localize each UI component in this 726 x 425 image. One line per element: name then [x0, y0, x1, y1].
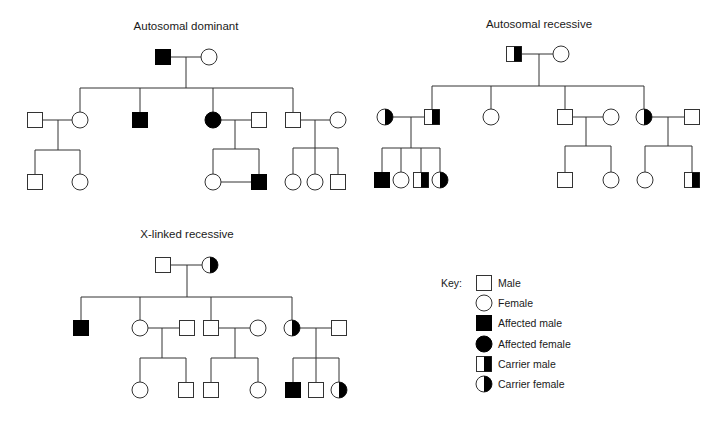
carrier-female-symbol [284, 320, 300, 336]
panel-title-dominant: Autosomal dominant [134, 20, 240, 32]
pedigree-autosomal-recessive: Autosomal recessive [375, 18, 700, 188]
female-symbol [637, 172, 653, 188]
key-item-label: Female [498, 297, 533, 309]
female-symbol [132, 320, 148, 336]
carrier-female-symbol [636, 109, 652, 125]
key-item-affected-male: Affected male [477, 316, 563, 331]
male-symbol [28, 175, 43, 190]
key-item-carrier-female: Carrier female [476, 376, 565, 392]
panel-title-recessive: Autosomal recessive [486, 18, 592, 30]
male-symbol [28, 113, 43, 128]
male-symbol [331, 175, 346, 190]
male-symbol [204, 383, 219, 398]
carrier-female-symbol [377, 109, 393, 125]
male-symbol [286, 113, 301, 128]
key-item-carrier-male: Carrier male [477, 357, 556, 372]
key-item-label: Male [498, 277, 521, 289]
male-symbol [156, 258, 171, 273]
key-item-male: Male [477, 276, 521, 291]
carrier-female-symbol [202, 257, 218, 273]
affected-male-symbol [156, 50, 171, 65]
carrier-male-icon [477, 357, 492, 372]
female-symbol [393, 172, 409, 188]
key-label: Key: [441, 277, 462, 289]
affected-male-symbol [252, 175, 267, 190]
pedigree-x-linked-recessive: X-linked recessive [74, 228, 348, 398]
female-symbol [307, 174, 323, 190]
affected-male-symbol [375, 173, 390, 188]
male-symbol [558, 110, 573, 125]
female-symbol [553, 46, 569, 62]
key-item-label: Affected female [498, 338, 571, 350]
male-icon [477, 276, 492, 291]
affected-male-icon [477, 316, 492, 331]
female-symbol [250, 382, 266, 398]
female-symbol [201, 49, 217, 65]
female-symbol [250, 320, 266, 336]
carrier-female-icon [476, 376, 492, 392]
pedigree-autosomal-dominant: Autosomal dominant [28, 20, 347, 190]
key-item-label: Carrier female [498, 378, 565, 390]
carrier-male-symbol [414, 173, 429, 188]
female-symbol [72, 112, 88, 128]
carrier-male-symbol [507, 47, 522, 62]
female-symbol [72, 174, 88, 190]
male-symbol [558, 173, 573, 188]
female-symbol [603, 172, 619, 188]
affected-male-symbol [286, 383, 301, 398]
legend-key: Key: Male Female Affected male Affected … [441, 276, 571, 393]
carrier-female-symbol [331, 382, 347, 398]
affected-female-icon [476, 336, 492, 352]
male-symbol [252, 113, 267, 128]
female-symbol [330, 112, 346, 128]
key-item-label: Carrier male [498, 358, 556, 370]
female-symbol [285, 174, 301, 190]
male-symbol [332, 321, 347, 336]
affected-male-symbol [133, 113, 148, 128]
male-symbol [204, 321, 219, 336]
female-symbol [603, 109, 619, 125]
key-item-label: Affected male [498, 317, 562, 329]
carrier-male-symbol [425, 110, 440, 125]
male-symbol [309, 383, 324, 398]
carrier-female-symbol [432, 172, 448, 188]
female-symbol [205, 174, 221, 190]
affected-male-symbol [74, 321, 89, 336]
key-item-affected-female: Affected female [476, 336, 571, 352]
female-symbol [483, 109, 499, 125]
male-symbol [180, 321, 195, 336]
female-icon [476, 295, 492, 311]
key-item-female: Female [476, 295, 533, 311]
male-symbol [685, 110, 700, 125]
male-symbol [179, 383, 194, 398]
female-symbol [132, 382, 148, 398]
affected-female-symbol [205, 112, 221, 128]
panel-title-xlinked: X-linked recessive [140, 228, 233, 240]
carrier-male-symbol [685, 173, 700, 188]
